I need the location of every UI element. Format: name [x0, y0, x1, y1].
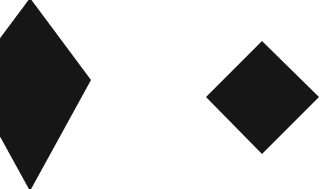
square-diamond-shape — [206, 41, 319, 154]
tall-diamond-shape — [0, 0, 91, 189]
shapes-layer — [0, 0, 332, 189]
canvas — [0, 0, 332, 189]
